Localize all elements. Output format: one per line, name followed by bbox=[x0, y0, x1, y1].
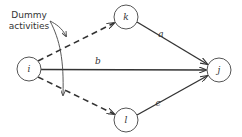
dummy-edge-i-l bbox=[38, 77, 114, 114]
annotation-line-2: activities bbox=[9, 21, 50, 31]
node-k: k bbox=[114, 5, 138, 29]
node-label-i: i bbox=[28, 64, 31, 74]
annotation-line-1: Dummy bbox=[11, 10, 47, 20]
node-l: l bbox=[114, 108, 138, 132]
node-j: j bbox=[207, 58, 231, 82]
callout-arrow-upper bbox=[50, 21, 66, 36]
edge-label-b: b bbox=[95, 56, 101, 66]
node-label-k: k bbox=[123, 12, 128, 22]
dummy-edge-i-k bbox=[38, 23, 114, 61]
edge-label-a: a bbox=[158, 29, 163, 39]
activity-network-diagram: a b c Dummy activities i k l j bbox=[0, 0, 242, 137]
edge-k-j bbox=[137, 22, 207, 64]
edge-i-j bbox=[41, 70, 206, 71]
node-label-l: l bbox=[125, 115, 128, 125]
edge-l-j bbox=[137, 76, 207, 115]
edge-label-c: c bbox=[155, 98, 160, 108]
node-i: i bbox=[17, 57, 41, 81]
